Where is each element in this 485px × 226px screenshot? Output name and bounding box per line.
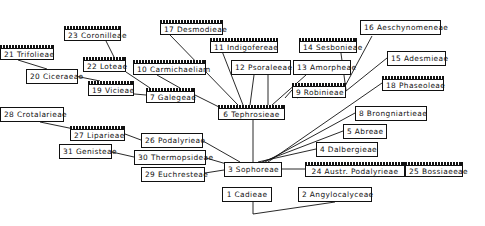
- tribe-node-31: 31 Genisteae: [59, 144, 112, 159]
- connector-line: [285, 90, 292, 98]
- tribe-node-28: 28 Crotalarieae: [0, 107, 64, 122]
- tribe-node-18: 18 Phaseoleae: [382, 76, 444, 91]
- tribe-node-16: 16 Aeschynomeneae: [360, 20, 441, 35]
- connector-line: [106, 41, 114, 57]
- tribe-node-26: 26 Podalyrieae: [141, 133, 203, 148]
- connector-line: [220, 46, 243, 105]
- tribe-node-9: 9 Robinieae: [292, 83, 346, 98]
- tribe-node-30: 30 Thermopsideae: [134, 150, 206, 165]
- tribe-node-6: 6 Tephrosieae: [218, 105, 285, 120]
- connector-line: [253, 202, 335, 214]
- connector-line: [250, 75, 254, 105]
- tribe-node-5: 5 Abreae: [343, 124, 387, 139]
- connector-line: [125, 134, 141, 140]
- tribe-node-12: 12 Psoraleeae: [231, 60, 291, 75]
- tribe-node-2: 2 Angylocalyceae: [298, 187, 372, 202]
- tribe-node-8: 8 Brongniartieae: [355, 106, 427, 121]
- tribe-node-15: 15 Adesmieae: [387, 51, 446, 66]
- tribe-node-24: 24 Austr. Podalyrieae: [305, 162, 405, 177]
- tribe-node-27: 27 Liparieae: [70, 126, 125, 141]
- tribe-node-23: 23 Coronilleae: [64, 26, 121, 41]
- tribe-node-25: 25 Bossiaeeae: [405, 162, 463, 177]
- connector-line: [40, 122, 74, 129]
- connector-line: [157, 75, 180, 88]
- tribe-node-29: 29 Euchresteae: [141, 167, 205, 182]
- legume-tribe-diagram: 1 Cadieae2 Angylocalyceae3 Sophoreae4 Da…: [0, 0, 485, 226]
- tribe-node-22: 22 Loteae: [83, 57, 126, 72]
- tribe-node-4: 4 Dalbergieae: [316, 142, 378, 157]
- tribe-node-3: 3 Sophoreae: [224, 162, 282, 177]
- tribe-node-17: 17 Desmodieae: [160, 20, 223, 35]
- tribe-node-1: 1 Cadieae: [222, 187, 272, 202]
- tribe-node-14: 14 Sesbonieae: [299, 38, 357, 53]
- tribe-node-11: 11 Indigofereae: [210, 38, 278, 53]
- tribe-node-19: 19 Vicieae: [88, 81, 134, 96]
- connector-line: [18, 60, 47, 69]
- tribe-node-21: 21 Trifolieae: [0, 45, 54, 60]
- tribe-node-20: 20 Ciceraeae: [26, 69, 78, 84]
- tribe-node-10: 10 Carmichaeliam: [133, 60, 206, 75]
- tribe-node-7: 7 Galegeae: [146, 88, 195, 103]
- tribe-node-13: 13 Amorpheae: [293, 60, 351, 75]
